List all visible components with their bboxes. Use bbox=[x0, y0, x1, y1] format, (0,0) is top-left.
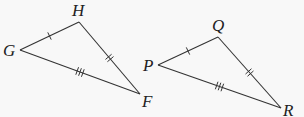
triangle-pqr bbox=[158, 37, 281, 108]
congruent-triangles-diagram: H G F Q P R bbox=[0, 0, 304, 117]
vertex-label-q: Q bbox=[212, 16, 224, 35]
vertex-label-h: H bbox=[71, 1, 86, 20]
triangle-ghf bbox=[20, 22, 140, 94]
vertex-label-g: G bbox=[3, 41, 15, 60]
vertex-label-p: P bbox=[142, 56, 153, 75]
vertex-label-f: F bbox=[141, 92, 153, 111]
vertex-label-r: R bbox=[282, 101, 294, 117]
